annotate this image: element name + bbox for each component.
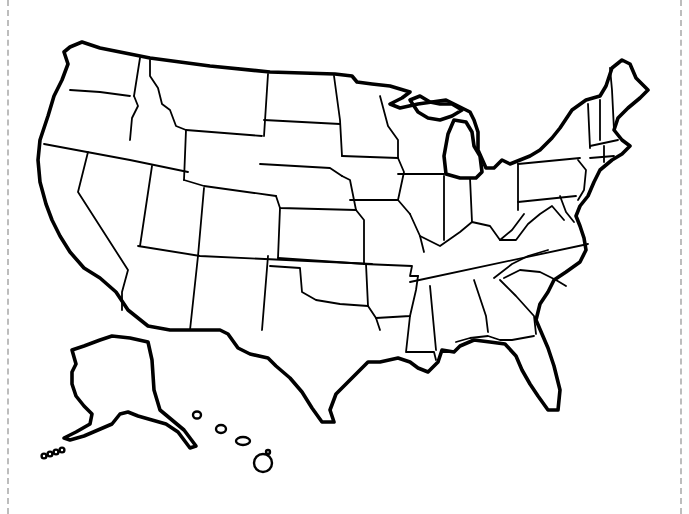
border-ia-il [398,158,410,214]
border-nd-mn [334,76,342,156]
border-sd-ne [260,164,342,176]
border-ks-mo [356,210,364,264]
border-ca-nv [78,152,128,310]
border-wv-va [500,206,564,240]
border-wa-or [70,90,130,96]
border-ok-ar-tx [366,264,380,330]
aleutian-islands [48,452,53,457]
border-or-ca-nv [44,144,188,172]
border-ma-ct-ri [590,156,614,158]
hawaii-niihau [266,450,270,454]
border-ut-co [198,188,204,256]
hawaii-maui [236,437,250,445]
border-or-id [130,96,138,140]
border-id-wy [184,130,186,180]
border-ms-al [430,286,436,350]
border-mo-il [410,214,424,252]
border-pa-south [518,196,576,202]
border-mt-dakotas [264,74,268,136]
border-co-ne-ks [276,196,356,210]
border-id-mt [150,60,186,130]
border-in-oh [470,178,472,222]
border-ny-vt [588,104,590,148]
border-mo-ar [364,264,418,276]
border-la-ms [406,316,436,360]
border-al-ga [474,280,488,332]
border-wa-id [134,58,140,96]
national-outlines [38,42,648,448]
us-outline-map [0,0,689,514]
border-tx-ok [270,266,368,306]
hawaii-big-island [254,454,272,472]
aleutian-islands [60,448,65,453]
border-nv-ut [140,166,152,246]
border-ga-sc [500,280,536,334]
border-mt-wy [186,130,262,136]
hawaii-kauai [193,412,201,419]
border-nj [578,160,586,200]
border-az-nm [190,256,198,330]
aleutian-islands [54,450,59,455]
michigan-upper-outline [410,96,462,120]
state-borders [44,58,618,360]
aleutian-islands [42,454,47,459]
border-nm-tx [262,256,268,330]
alaska-outline [64,336,196,448]
border-mn-ia [342,156,398,158]
hawaii-oahu [216,425,226,433]
contiguous-us-outline [38,42,648,422]
border-ne-ia-mo [342,176,356,210]
border-wy-ut-co [184,180,276,196]
border-co-east [278,208,280,258]
border-nd-sd [264,120,340,124]
